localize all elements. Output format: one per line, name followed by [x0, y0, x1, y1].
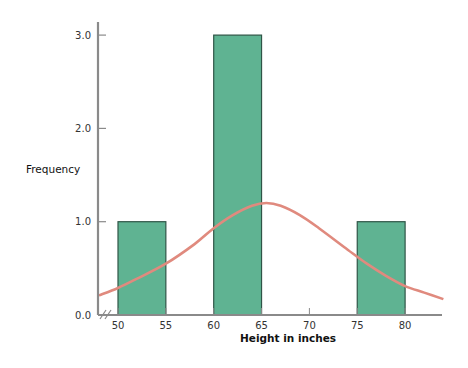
x-tick-label: 75 [351, 320, 364, 331]
x-tick-label: 65 [255, 320, 268, 331]
x-tick-label: 60 [207, 320, 220, 331]
x-tick-label: 50 [112, 320, 125, 331]
y-axis-title: Frequency [26, 163, 80, 175]
x-tick-label: 70 [303, 320, 316, 331]
x-axis-title: Height in inches [240, 332, 336, 344]
x-tick-label: 55 [159, 320, 172, 331]
histogram-bars [118, 35, 405, 315]
y-tick-label: 2.0 [75, 123, 91, 134]
histogram-chart: 0.01.02.03.0 50556065707580 Frequency He… [0, 0, 468, 368]
y-axis-ticks: 0.01.02.03.0 [75, 30, 106, 321]
x-tick-label: 80 [399, 320, 412, 331]
y-tick-label: 3.0 [75, 30, 91, 41]
y-tick-label: 1.0 [75, 216, 91, 227]
y-tick-label: 0.0 [75, 310, 91, 321]
histogram-bar [357, 222, 405, 315]
histogram-bar [214, 35, 262, 315]
